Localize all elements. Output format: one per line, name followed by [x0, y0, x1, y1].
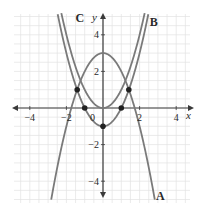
- y-tick-label: 2: [94, 66, 99, 77]
- y-tick-label: −2: [88, 139, 99, 150]
- intersection-point: [100, 124, 106, 130]
- x-tick-label: −4: [24, 112, 35, 123]
- y-tick-label: −4: [88, 176, 99, 187]
- x-tick-label: −2: [61, 112, 72, 123]
- curve-label-c: C: [76, 11, 85, 25]
- intersection-point: [119, 105, 125, 111]
- curve-label-a: A: [156, 189, 165, 203]
- origin-label: 0: [90, 112, 95, 123]
- x-axis-left-arrow-icon: [12, 105, 18, 111]
- intersection-point: [126, 87, 132, 93]
- x-tick-label: 2: [137, 112, 142, 123]
- y-tick-label: 4: [94, 29, 99, 40]
- intersection-point: [74, 87, 80, 93]
- y-axis-label: y: [91, 11, 97, 23]
- intersection-point: [82, 105, 88, 111]
- y-axis-up-arrow-icon: [100, 13, 106, 19]
- function-graph: −4−22442−2−40xyABC: [0, 0, 200, 207]
- y-axis-down-arrow-icon: [100, 192, 106, 198]
- curve-label-b: B: [150, 15, 158, 29]
- x-axis-label: x: [185, 109, 191, 121]
- x-tick-label: 4: [174, 112, 179, 123]
